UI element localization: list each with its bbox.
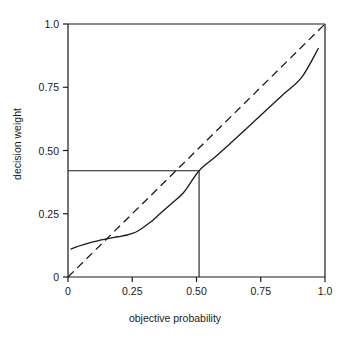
series-1-identity-line bbox=[68, 24, 325, 277]
probability-weighting-chart: objective probability decision weight 00… bbox=[0, 0, 350, 341]
x-tick-label-2: 0.50 bbox=[172, 286, 222, 297]
x-tick-label-0: 0 bbox=[43, 286, 93, 297]
x-tick-label-1: 0.25 bbox=[107, 286, 157, 297]
y-tick-label-1: 0.25 bbox=[11, 209, 59, 220]
y-tick-label-0: 0 bbox=[11, 272, 59, 283]
y-tick-label-4: 1.0 bbox=[11, 19, 59, 30]
series-0-weighting-curve bbox=[71, 48, 319, 249]
x-axis-title: objective probability bbox=[0, 312, 350, 324]
y-tick-label-3: 0.75 bbox=[11, 82, 59, 93]
x-tick-label-3: 0.75 bbox=[236, 286, 286, 297]
y-axis-title: decision weight bbox=[11, 79, 23, 209]
x-tick-label-4: 1.0 bbox=[300, 286, 350, 297]
y-tick-label-2: 0.50 bbox=[11, 146, 59, 157]
